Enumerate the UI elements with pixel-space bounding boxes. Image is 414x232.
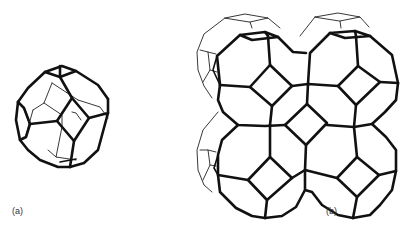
figure-panel-b: (b) <box>150 0 414 232</box>
back-cages <box>197 13 369 192</box>
panel-a-label: (a) <box>12 206 23 216</box>
front-cages <box>217 31 398 218</box>
panel-b-label: (b) <box>326 206 337 216</box>
figure-panel-a: (a) <box>0 0 150 232</box>
truncated-octahedron-drawing <box>0 0 150 232</box>
sodalite-framework-drawing <box>150 0 414 232</box>
